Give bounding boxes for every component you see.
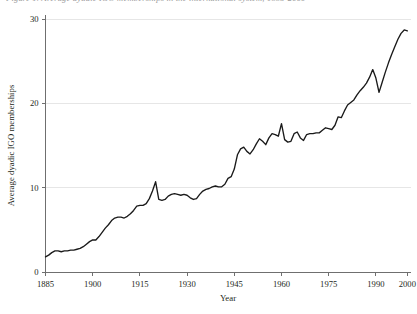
y-tick-label-10: 10 (30, 183, 39, 193)
x-tick-label-1960: 1960 (273, 279, 290, 289)
y-axis-title: Average dyadic IGO memberships (6, 84, 16, 206)
tick-marks-group (42, 19, 408, 276)
y-tick-label-30: 30 (30, 14, 39, 24)
x-tick-label-1885: 1885 (37, 279, 54, 289)
x-tick-label-1975: 1975 (320, 279, 337, 289)
x-tick-label-2000: 2000 (399, 279, 416, 289)
axes-group (43, 15, 411, 276)
x-tick-label-1945: 1945 (226, 279, 243, 289)
x-tick-label-1915: 1915 (131, 279, 148, 289)
x-tick-label-1930: 1930 (179, 279, 196, 289)
y-tick-label-20: 20 (30, 98, 39, 108)
figure-container: Figure 1. Average dyadic IGO memberships… (0, 0, 417, 314)
x-axis-title: Year (220, 293, 236, 303)
y-tick-label-0: 0 (34, 267, 38, 277)
line-chart: 188519001915193019451960197519902000 010… (0, 0, 417, 314)
data-series-group (46, 30, 408, 257)
x-tick-labels-group: 188519001915193019451960197519902000 (37, 279, 416, 289)
y-tick-labels-group: 0102030 (30, 14, 39, 277)
figure-caption-sliver: Figure 1. Average dyadic IGO memberships… (6, 0, 411, 3)
x-tick-label-1990: 1990 (367, 279, 384, 289)
x-tick-label-1900: 1900 (84, 279, 101, 289)
series-line-0 (46, 30, 408, 257)
